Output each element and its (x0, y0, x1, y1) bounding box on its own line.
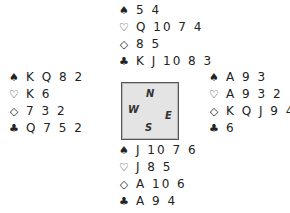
diamond-icon: ◇ (117, 176, 131, 193)
compass-west-label: W (128, 103, 139, 116)
north-spades: ♠5 4 (117, 2, 213, 19)
club-icon: ♣ (117, 193, 131, 210)
east-diamonds: ◇K Q J 9 4 (207, 103, 290, 120)
club-icon: ♣ (207, 120, 221, 137)
club-icon: ♣ (117, 53, 131, 70)
west-diamonds: ◇7 3 2 (7, 103, 84, 120)
north-hearts: ♡Q 10 7 4 (117, 19, 213, 36)
diamond-icon: ◇ (117, 36, 131, 53)
compass-table: N W E S (121, 82, 179, 140)
west-hand: ♠K Q 8 2 ♡K 6 ◇7 3 2 ♣Q 7 5 2 (7, 69, 84, 137)
east-spades: ♠A 9 3 (207, 69, 290, 86)
heart-icon: ♡ (207, 86, 221, 103)
west-clubs: ♣Q 7 5 2 (7, 120, 84, 137)
north-hand: ♠5 4 ♡Q 10 7 4 ◇8 5 ♣K J 10 8 3 (117, 2, 213, 70)
south-clubs: ♣A 9 4 (117, 193, 198, 210)
south-diamonds: ◇A 10 6 (117, 176, 198, 193)
spade-icon: ♠ (117, 142, 131, 159)
compass-east-label: E (165, 109, 172, 122)
spade-icon: ♠ (207, 69, 221, 86)
heart-icon: ♡ (7, 86, 21, 103)
north-clubs: ♣K J 10 8 3 (117, 53, 213, 70)
south-hearts: ♡J 8 5 (117, 159, 198, 176)
diamond-icon: ◇ (207, 103, 221, 120)
spade-icon: ♠ (117, 2, 131, 19)
west-hearts: ♡K 6 (7, 86, 84, 103)
east-hearts: ♡A 9 3 2 (207, 86, 290, 103)
east-clubs: ♣6 (207, 120, 290, 137)
west-spades: ♠K Q 8 2 (7, 69, 84, 86)
compass-north-label: N (146, 87, 154, 100)
south-hand: ♠J 10 7 6 ♡J 8 5 ◇A 10 6 ♣A 9 4 (117, 142, 198, 210)
south-spades: ♠J 10 7 6 (117, 142, 198, 159)
compass-south-label: S (145, 121, 152, 134)
north-diamonds: ◇8 5 (117, 36, 213, 53)
spade-icon: ♠ (7, 69, 21, 86)
diamond-icon: ◇ (7, 103, 21, 120)
heart-icon: ♡ (117, 19, 131, 36)
east-hand: ♠A 9 3 ♡A 9 3 2 ◇K Q J 9 4 ♣6 (207, 69, 290, 137)
heart-icon: ♡ (117, 159, 131, 176)
club-icon: ♣ (7, 120, 21, 137)
